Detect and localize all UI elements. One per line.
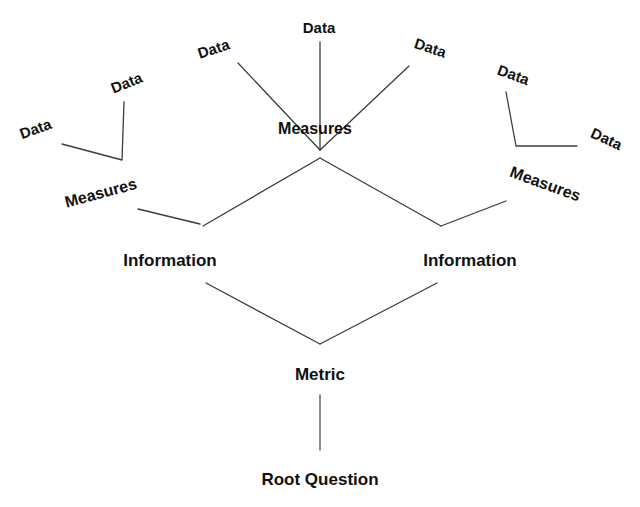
edge-data-6-to-data-7-elbow (506, 92, 577, 146)
edge-data-1-to-data-2-elbow (62, 102, 124, 160)
node-data-1: Data (17, 115, 54, 142)
diagram-canvas: DataDataDataDataDataDataDataMeasuresMeas… (0, 0, 640, 507)
node-meas-left: Measures (63, 175, 139, 211)
node-meas-right: Measures (508, 163, 583, 204)
edge-data-5-to-meas-center (320, 66, 409, 150)
node-data-7: Data (588, 124, 625, 153)
node-info-right: Information (423, 251, 517, 270)
node-metric: Metric (295, 365, 345, 384)
node-layer: DataDataDataDataDataDataDataMeasuresMeas… (17, 19, 625, 490)
node-data-6: Data (495, 61, 532, 88)
node-data-3: Data (195, 35, 232, 61)
node-info-left: Information (123, 251, 217, 270)
node-meas-center: Measures (278, 120, 352, 137)
edge-meas-center-to-info-right (320, 158, 441, 226)
edge-info-right-to-metric (320, 283, 437, 344)
edge-meas-left-to-info-left (138, 209, 200, 224)
edge-meas-center-to-info-left (203, 158, 320, 226)
node-data-5: Data (412, 34, 449, 60)
edge-layer (62, 42, 577, 450)
node-data-4: Data (303, 19, 336, 36)
edge-meas-right-to-info-right (441, 201, 506, 226)
node-root: Root Question (261, 470, 378, 489)
metric-tree-diagram: DataDataDataDataDataDataDataMeasuresMeas… (0, 0, 640, 507)
node-data-2: Data (108, 68, 145, 96)
edge-info-left-to-metric (206, 283, 320, 344)
